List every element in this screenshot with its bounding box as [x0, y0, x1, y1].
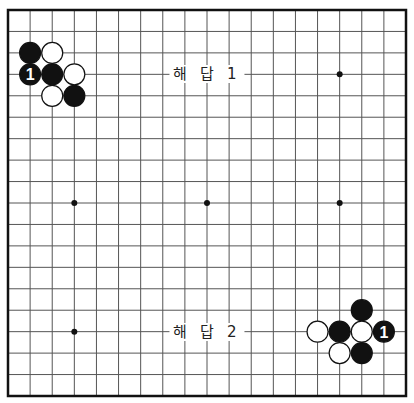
black-stone-icon — [64, 85, 85, 106]
go-board: 11 — [0, 0, 414, 403]
black-stone-icon — [351, 300, 372, 321]
white-stone-icon — [307, 321, 328, 342]
star-point-icon — [337, 71, 343, 77]
white-stone-icon — [42, 85, 63, 106]
black-stone-icon — [42, 64, 63, 85]
move-number: 1 — [26, 66, 35, 83]
black-stone-icon — [351, 343, 372, 364]
black-stone-icon — [329, 321, 350, 342]
white-stone-icon — [42, 42, 63, 63]
move-number: 1 — [379, 324, 388, 341]
star-point-icon — [204, 200, 210, 206]
black-stone-icon — [20, 42, 41, 63]
star-point-icon — [337, 200, 343, 206]
white-stone-icon — [351, 321, 372, 342]
solution-label-2: 해 답 2 — [169, 323, 244, 341]
star-point-icon — [71, 329, 77, 335]
white-stone-icon — [329, 343, 350, 364]
star-point-icon — [71, 200, 77, 206]
solution-label-1: 해 답 1 — [169, 65, 244, 83]
white-stone-icon — [64, 64, 85, 85]
